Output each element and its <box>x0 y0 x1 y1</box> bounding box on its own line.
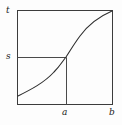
x-axis-label-b: b <box>109 108 115 117</box>
plot-canvas <box>0 0 122 125</box>
figure-container: t s a b <box>0 0 122 125</box>
x-axis-label-a: a <box>62 108 67 117</box>
y-axis-label-s: s <box>6 52 11 61</box>
distribution-curve <box>18 11 112 96</box>
y-axis-label-t: t <box>6 6 10 15</box>
